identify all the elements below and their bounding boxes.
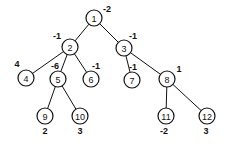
nodes-layer: 123456789101112 — [18, 10, 215, 124]
node-value-label-5: -6 — [51, 61, 59, 71]
tree-node-1: 1 — [86, 10, 102, 26]
node-label: 10 — [75, 112, 85, 122]
tree-node-11: 11 — [158, 108, 174, 124]
tree-node-5: 5 — [50, 71, 66, 87]
tree-node-4: 4 — [18, 70, 34, 86]
node-value-label-3: -1 — [129, 31, 137, 41]
tree-node-7: 7 — [124, 72, 140, 88]
tree-diagram: 123456789101112 -2-1-14-6-1-1123-23 — [0, 0, 229, 144]
edge-8-11 — [166, 87, 167, 108]
node-label: 5 — [55, 75, 60, 85]
node-label: 8 — [164, 75, 169, 85]
node-value-label-1: -2 — [103, 4, 111, 14]
node-value-label-4: 4 — [14, 59, 19, 69]
node-value-label-9: 2 — [42, 126, 47, 136]
node-value-label-7: -1 — [129, 62, 137, 72]
edge-2-5 — [61, 54, 67, 71]
tree-node-3: 3 — [116, 40, 132, 56]
node-label: 6 — [88, 75, 93, 85]
node-label: 4 — [23, 74, 28, 84]
node-value-label-12: 3 — [203, 126, 208, 136]
node-label: 11 — [161, 112, 170, 122]
edge-5-9 — [48, 87, 56, 109]
edge-1-2 — [75, 24, 89, 41]
edge-8-12 — [173, 84, 201, 110]
node-value-label-2: -1 — [53, 31, 61, 41]
edge-2-6 — [74, 54, 86, 73]
node-label: 9 — [42, 112, 47, 122]
node-value-label-8: 1 — [176, 64, 181, 74]
tree-node-8: 8 — [159, 71, 175, 87]
node-value-label-6: -1 — [92, 61, 100, 71]
node-label: 1 — [91, 14, 96, 24]
tree-node-10: 10 — [72, 108, 88, 124]
node-value-label-11: -2 — [160, 126, 168, 136]
tree-node-12: 12 — [199, 108, 215, 124]
node-label: 3 — [121, 44, 126, 54]
tree-node-9: 9 — [37, 108, 53, 124]
node-label: 12 — [202, 112, 212, 122]
tree-node-6: 6 — [83, 71, 99, 87]
node-label: 2 — [67, 43, 72, 53]
edge-1-3 — [100, 24, 119, 43]
tree-node-2: 2 — [62, 39, 78, 55]
node-value-label-10: 3 — [77, 126, 82, 136]
node-label: 7 — [129, 76, 134, 86]
edge-5-10 — [62, 86, 76, 109]
